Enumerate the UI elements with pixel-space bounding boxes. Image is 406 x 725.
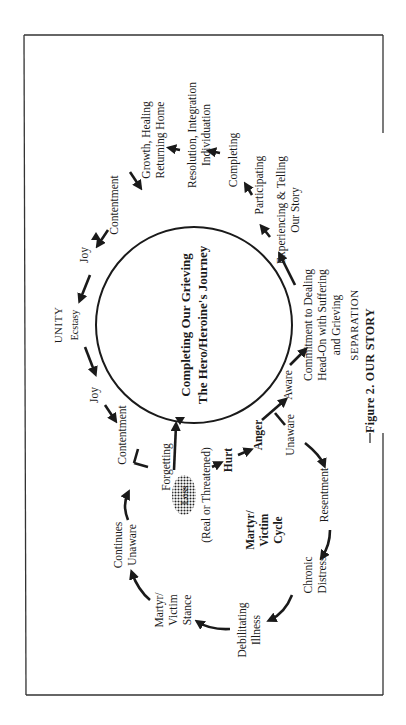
separation-label: SEPARATION <box>348 289 360 360</box>
illness-line1: Debilitating <box>236 602 249 657</box>
circle-arrowhead-right <box>91 232 101 240</box>
hurt-label: Hurt <box>222 448 234 472</box>
arrow-continues-to-contentment <box>125 493 128 520</box>
joy-right: Joy <box>78 247 91 263</box>
experiencing-line1: Experiencing & Telling <box>275 156 288 264</box>
ecstasy-label: Ecstasy <box>69 310 80 341</box>
stance-line3: Stance <box>181 595 193 626</box>
resolution-line1: Resolution, Integration <box>186 82 199 188</box>
landscape-diagram: UNITY SEPARATION Figure 2. OUR STORY Com… <box>52 82 377 658</box>
arrow-joy-to-contentment <box>105 405 115 420</box>
joy-left: Joy <box>88 387 101 403</box>
arrow-participating-to-completing <box>246 185 252 195</box>
arrow-anger-to-aware <box>262 400 285 420</box>
continues-line2: Unaware <box>126 524 138 566</box>
resolution-line2: Individuation <box>200 104 212 166</box>
center-title-line1: Completing Our Grieving <box>178 253 193 397</box>
arrow-experiencing-to-participating <box>262 227 270 237</box>
continues-line1: Continues <box>112 521 124 568</box>
resentment-label: Resentment <box>318 467 330 522</box>
arrow-resolution-to-growth <box>170 148 180 150</box>
contentment-left: Contentment <box>116 404 128 464</box>
arrow-resentment-to-chronic <box>322 530 330 557</box>
cycle-line3: Cycle <box>272 516 285 543</box>
figure-caption: Figure 2. OUR STORY <box>363 308 377 433</box>
arrow-ecstasy-to-joy <box>85 347 95 373</box>
chronic-line1: Chronic <box>302 556 314 593</box>
center-title-line2: The Hero/Heroine's Journey <box>195 245 210 404</box>
commitment-line3: and Grieving <box>330 295 343 356</box>
arrow-joy-to-ecstasy <box>80 275 90 300</box>
figure-page: UNITY SEPARATION Figure 2. OUR STORY Com… <box>0 0 406 725</box>
aware-label: Aware <box>282 370 294 400</box>
completing-label: Completing <box>227 133 240 188</box>
growth-line1: Growth, Healing <box>140 101 153 179</box>
arrow-illness-to-stance <box>198 622 230 629</box>
arrow-unaware-to-resentment <box>305 443 324 465</box>
unity-label: UNITY <box>52 307 64 344</box>
branch-contentment <box>134 449 148 467</box>
cycle-line1: Martyr/ <box>244 509 257 549</box>
arrow-chronic-to-illness <box>270 595 292 620</box>
journey-circle <box>96 227 292 423</box>
stance-line1: Martyr/ <box>153 592 166 628</box>
anger-label: Anger <box>252 420 265 451</box>
forgetting-label: Forgetting <box>160 443 173 491</box>
loss-sub: (Real or Threatened) <box>200 447 213 543</box>
cycle-line2: Victim <box>258 513 270 546</box>
figure-diagram: UNITY SEPARATION Figure 2. OUR STORY Com… <box>0 0 406 725</box>
commitment-line1: Commitment to Dealing <box>302 269 315 381</box>
arrow-stance-to-continues <box>132 573 150 600</box>
arrow-loss-to-hurt <box>212 463 220 467</box>
arrow-forgetting <box>174 425 176 470</box>
experiencing-line2: Our Story <box>289 187 302 233</box>
illness-line2: Illness <box>250 614 262 645</box>
commitment-line2: Head-On with Suffering <box>316 269 329 381</box>
unaware-label: Unaware <box>284 414 296 456</box>
contentment-right: Contentment <box>108 174 120 234</box>
chronic-line2: Distress <box>316 556 328 594</box>
participating-label: Participating <box>253 155 266 214</box>
loss-label: Loss <box>179 485 190 504</box>
arrow-hurt-to-anger <box>238 450 250 455</box>
arrow-growth-to-contentment <box>130 172 140 187</box>
arrow-contentment-to-joy <box>98 230 108 245</box>
stance-line2: Victim <box>167 594 179 625</box>
growth-line2: Returning Home <box>154 102 167 179</box>
